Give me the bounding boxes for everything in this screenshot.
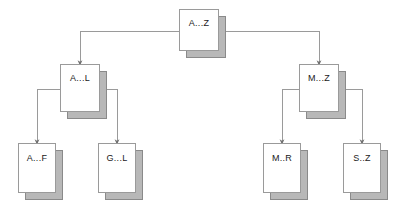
tree-node-sz[interactable]: S..Z (343, 143, 381, 193)
node-front-face: M..R (263, 143, 301, 193)
tree-node-mr[interactable]: M..R (263, 143, 301, 193)
diagram-canvas: A...ZA...LM...ZA...FG...LM..RS..Z (0, 0, 405, 206)
node-front-face: A...L (60, 64, 100, 112)
node-front-face: M...Z (299, 64, 339, 112)
node-front-face: A...Z (179, 9, 219, 51)
edge-al-to-af (37, 89, 60, 142)
tree-node-gl[interactable]: G...L (98, 143, 136, 193)
edge-root-to-mz (219, 31, 319, 63)
node-label: A...Z (189, 10, 210, 28)
tree-node-af[interactable]: A...F (18, 143, 56, 193)
node-label: M...Z (308, 65, 330, 83)
node-front-face: A...F (18, 143, 56, 193)
edge-mz-to-mr (282, 89, 299, 142)
node-front-face: G...L (98, 143, 136, 193)
tree-node-al[interactable]: A...L (60, 64, 100, 112)
tree-node-mz[interactable]: M...Z (299, 64, 339, 112)
tree-node-root[interactable]: A...Z (179, 9, 219, 51)
node-label: M..R (272, 144, 292, 163)
node-front-face: S..Z (343, 143, 381, 193)
edge-root-to-al (80, 31, 179, 63)
node-label: A...L (70, 65, 90, 83)
node-label: G...L (106, 144, 127, 163)
node-label: A...F (27, 144, 48, 163)
node-label: S..Z (353, 144, 371, 163)
